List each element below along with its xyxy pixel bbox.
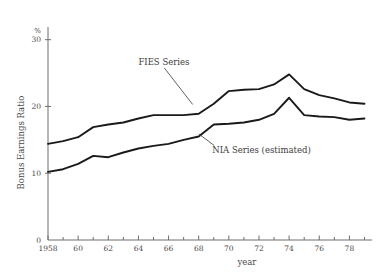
- chart-container: 1020300%195860626466687072747678yearBonu…: [0, 0, 391, 278]
- y-axis-unit-label: %: [34, 27, 41, 35]
- x-tick-label: 72: [254, 244, 264, 253]
- x-tick-label: 76: [314, 244, 324, 253]
- x-tick-label: 68: [194, 244, 204, 253]
- annotation-leader-line: [164, 68, 192, 104]
- line-chart: 1020300%195860626466687072747678yearBonu…: [0, 0, 391, 278]
- x-tick-label: 66: [164, 244, 174, 253]
- x-tick-label: 78: [345, 244, 355, 253]
- y-tick-label: 10: [31, 169, 41, 178]
- y-tick-label: 30: [31, 35, 41, 44]
- x-tick-label: 74: [284, 244, 294, 253]
- x-tick-label: 64: [134, 244, 144, 253]
- x-tick-label: 1958: [38, 244, 57, 253]
- annotation-leader-line: [199, 134, 215, 146]
- series-line-fies: [48, 74, 364, 143]
- x-tick-label: 70: [224, 244, 234, 253]
- x-axis-title: year: [236, 257, 257, 267]
- x-tick-label: 62: [104, 244, 114, 253]
- y-axis-title: Bonus Earnings Ratio: [16, 96, 26, 190]
- nia-series-label: NIA Series (estimated): [212, 145, 311, 155]
- fies-series-label: FIES Series: [138, 57, 189, 67]
- y-tick-label: 20: [31, 102, 41, 111]
- x-tick-label: 60: [73, 244, 83, 253]
